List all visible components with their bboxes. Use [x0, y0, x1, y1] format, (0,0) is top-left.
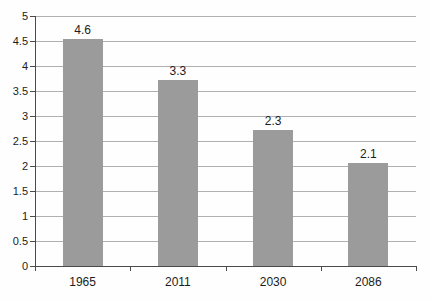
bar	[63, 39, 103, 267]
y-axis-tick-label: 0	[0, 260, 28, 273]
y-axis-line	[35, 16, 36, 266]
bar-chart: 54.543.532.521.510.504.619653.320112.320…	[0, 0, 430, 301]
y-axis-tick-label: 4.5	[0, 35, 28, 48]
y-axis-tick-label: 4	[0, 60, 28, 73]
y-axis-tick-label: 0.5	[0, 235, 28, 248]
y-axis-tick-label: 1.5	[0, 185, 28, 198]
bar-value-label: 2.1	[338, 147, 398, 161]
x-axis-category-label: 1965	[43, 275, 123, 289]
y-axis-tick-label: 3	[0, 110, 28, 123]
bar	[348, 163, 388, 266]
y-axis-tick-label: 5	[0, 10, 28, 23]
y-axis-tick-label: 2.5	[0, 135, 28, 148]
x-axis-tick	[226, 267, 227, 271]
bar	[158, 80, 198, 266]
bar-value-label: 4.6	[53, 23, 113, 37]
x-axis-tick	[130, 267, 131, 271]
x-axis-tick	[35, 267, 36, 271]
gridline	[35, 16, 416, 17]
bar-value-label: 2.3	[243, 114, 303, 128]
x-axis-category-label: 2011	[138, 275, 218, 289]
x-axis-tick	[416, 267, 417, 271]
x-axis-category-label: 2086	[328, 275, 408, 289]
bar-value-label: 3.3	[148, 64, 208, 78]
bar	[253, 130, 293, 266]
y-axis-tick-label: 1	[0, 210, 28, 223]
y-axis-tick-label: 3.5	[0, 85, 28, 98]
y-axis-tick-label: 2	[0, 160, 28, 173]
x-axis-tick	[321, 267, 322, 271]
x-axis-category-label: 2030	[233, 275, 313, 289]
